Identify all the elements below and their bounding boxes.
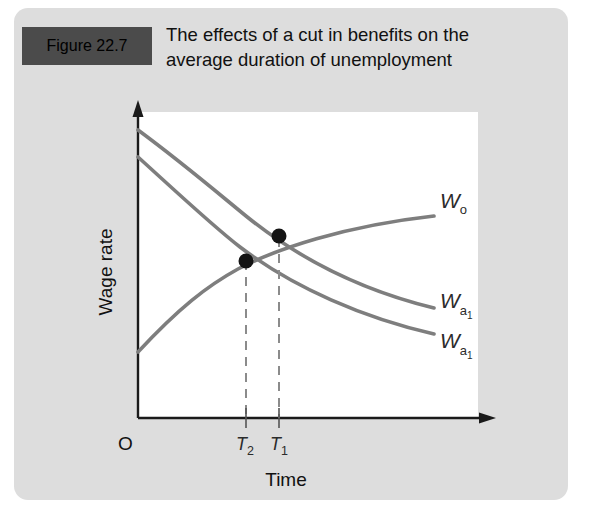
plot-background bbox=[138, 112, 478, 418]
curve-label-wa1-after-cut-subsub: 1 bbox=[467, 350, 473, 361]
x-axis-label: Time bbox=[265, 469, 307, 490]
x-tick-label-t2-sub: 2 bbox=[247, 444, 254, 458]
figure-card: Figure 22.7 The effects of a cut in bene… bbox=[14, 8, 568, 500]
curve-label-wo-base: W bbox=[440, 189, 462, 212]
figure-title-line-1: The effects of a cut in benefits on the bbox=[166, 22, 546, 47]
chart-area: T2 T1 O Time Wage rate Wo Wa1 Wa1 bbox=[14, 86, 568, 496]
curve-label-wa1-original-subsub: 1 bbox=[467, 310, 473, 321]
y-axis-label: Wage rate bbox=[95, 229, 116, 316]
x-tick-label-t1-sub: 1 bbox=[281, 444, 288, 458]
curve-label-wa1-after-cut-base: W bbox=[440, 329, 462, 352]
figure-number-label: Figure 22.7 bbox=[47, 37, 128, 55]
figure-title: The effects of a cut in benefits on the … bbox=[166, 22, 546, 72]
x-tick-label-t1: T1 bbox=[270, 434, 288, 458]
figure-header: Figure 22.7 The effects of a cut in bene… bbox=[14, 20, 568, 82]
intersection-dot-t2 bbox=[239, 254, 254, 269]
unemployment-duration-chart: T2 T1 O Time Wage rate Wo Wa1 Wa1 bbox=[14, 86, 568, 496]
figure-number-badge: Figure 22.7 bbox=[22, 27, 152, 65]
x-tick-label-t2: T2 bbox=[236, 434, 254, 458]
origin-label: O bbox=[118, 433, 133, 454]
x-axis-arrow-icon bbox=[479, 413, 496, 424]
y-axis-arrow-icon bbox=[133, 100, 144, 117]
curve-label-wa1-original-base: W bbox=[440, 289, 462, 312]
intersection-dot-t1 bbox=[272, 229, 287, 244]
curve-label-wo-sub: o bbox=[460, 202, 467, 217]
figure-title-line-2: average duration of unemployment bbox=[166, 47, 546, 72]
